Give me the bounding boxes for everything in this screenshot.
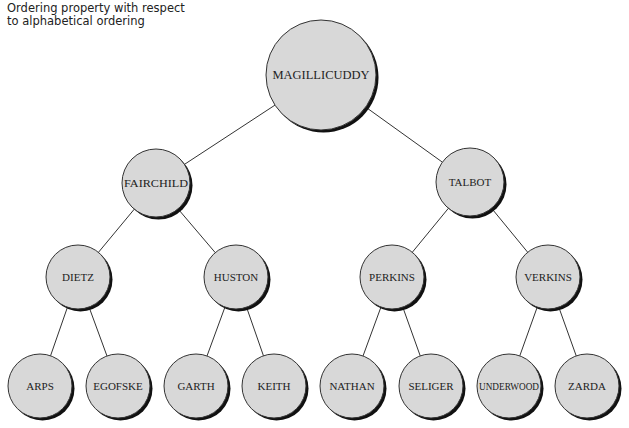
node-label: ARPS <box>26 380 54 392</box>
tree-node-dietz: DIETZ <box>46 245 113 312</box>
node-label: NATHAN <box>329 380 374 392</box>
node-label: EGOFSKE <box>93 380 143 392</box>
tree-node-egofske: EGOFSKE <box>86 354 153 421</box>
tree-edge <box>520 307 537 356</box>
node-label: VERKINS <box>524 271 572 283</box>
node-label: MAGILLICUDDY <box>272 68 369 82</box>
tree-node-nathan: NATHAN <box>320 354 387 421</box>
tree-edge <box>403 307 420 356</box>
tree-node-seliger: SELIGER <box>399 354 466 421</box>
tree-node-arps: ARPS <box>8 354 75 421</box>
tree-node-talbot: TALBOT <box>436 148 507 219</box>
tree-edge <box>184 105 275 164</box>
tree-edge <box>492 208 528 252</box>
node-label: KEITH <box>258 380 291 392</box>
tree-node-huston: HUSTON <box>204 245 271 312</box>
node-label: PERKINS <box>369 271 415 283</box>
tree-edge <box>51 307 68 356</box>
tree-node-verkins: VERKINS <box>516 245 583 312</box>
tree-edge <box>98 209 134 252</box>
node-label: ZARDA <box>568 380 606 392</box>
tree-edge <box>412 208 448 252</box>
tree-node-perkins: PERKINS <box>360 245 427 312</box>
node-label: UNDERWOOD <box>479 380 539 392</box>
tree-node-fairchild: FAIRCHILD <box>122 149 193 220</box>
tree-edges <box>51 105 577 356</box>
tree-edge <box>559 307 576 356</box>
node-label: TALBOT <box>449 176 492 188</box>
tree-edge <box>207 307 225 356</box>
node-label: FAIRCHILD <box>124 177 188 189</box>
node-label: GARTH <box>177 380 214 392</box>
tree-node-garth: GARTH <box>164 354 231 421</box>
tree-node-keith: KEITH <box>242 354 309 421</box>
tree-node-zarda: ZARDA <box>555 354 622 421</box>
tree-edge <box>247 307 264 356</box>
tree-nodes: MAGILLICUDDYFAIRCHILDTALBOTDIETZHUSTONPE… <box>8 20 622 421</box>
node-label: HUSTON <box>214 271 258 283</box>
tree-node-magillicuddy: MAGILLICUDDY <box>266 20 379 133</box>
tree-edge <box>366 107 443 162</box>
node-label: SELIGER <box>408 380 454 392</box>
tree-edge <box>363 307 381 356</box>
tree-edge <box>178 209 215 253</box>
tree-node-underwood: UNDERWOOD <box>477 354 544 421</box>
tree-edge <box>89 307 107 356</box>
binary-search-tree: MAGILLICUDDYFAIRCHILDTALBOTDIETZHUSTONPE… <box>0 0 629 428</box>
node-label: DIETZ <box>62 271 94 283</box>
